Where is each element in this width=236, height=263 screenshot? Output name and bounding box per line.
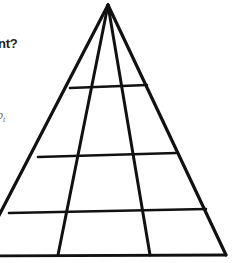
figure-background <box>0 0 236 263</box>
pyramid-base-line <box>0 255 226 256</box>
pyramid-grid-figure <box>0 0 236 263</box>
diagram-canvas: nt? upt <box>0 0 236 263</box>
